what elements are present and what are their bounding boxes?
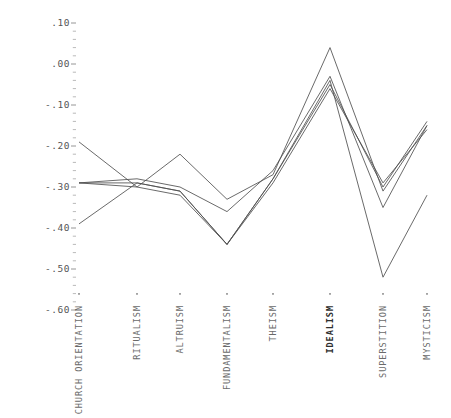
category-marker	[226, 293, 228, 295]
x-tick-label-idealism: IDEALISM	[325, 305, 335, 354]
series-line-series-4	[79, 89, 427, 245]
x-tick-label-church-orientation: CHURCH ORIENTATION	[74, 305, 84, 414]
x-tick-label-ritualism: RITUALISM	[132, 305, 142, 360]
category-marker	[329, 293, 331, 295]
category-marker	[426, 293, 428, 295]
y-axis-major-ticks	[71, 23, 76, 310]
x-tick-label-superstition: SUPERSTITION	[378, 305, 388, 378]
y-axis-tick-labels: .10.00-.10-.20-.30-.40-.50-.60	[45, 17, 70, 315]
y-tick-label: -.20	[45, 140, 70, 151]
line-chart: .10.00-.10-.20-.30-.40-.50-.60 CHURCH OR…	[0, 0, 451, 418]
y-tick-label: -.10	[45, 99, 70, 110]
y-axis-minor-ticks	[73, 31, 76, 302]
x-tick-label-mysticism: MYSTICISM	[422, 305, 432, 360]
series-line-series-3	[79, 85, 427, 245]
series-line-series-1	[79, 48, 427, 200]
category-marker	[179, 293, 181, 295]
x-axis-tick-labels: CHURCH ORIENTATIONRITUALISMALTRUISMFUNDA…	[74, 305, 432, 414]
y-tick-label: -.60	[45, 304, 70, 315]
x-tick-label-altruism: ALTRUISM	[175, 305, 185, 354]
series-line-series-2	[79, 76, 427, 211]
category-marker	[382, 293, 384, 295]
y-tick-label: -.30	[45, 181, 70, 192]
category-marker	[78, 293, 80, 295]
y-tick-label: .10	[51, 17, 70, 28]
data-series-group	[79, 48, 427, 278]
category-column-markers	[78, 293, 428, 295]
x-tick-label-theism: THEISM	[268, 305, 278, 341]
x-tick-label-fundamentalism: FUNDAMENTALISM	[222, 305, 232, 390]
y-tick-label: .00	[51, 58, 70, 69]
chart-plot-area: .10.00-.10-.20-.30-.40-.50-.60 CHURCH OR…	[0, 0, 451, 418]
category-marker	[136, 293, 138, 295]
category-marker	[272, 293, 274, 295]
y-tick-label: -.50	[45, 263, 70, 274]
y-tick-label: -.40	[45, 222, 70, 233]
